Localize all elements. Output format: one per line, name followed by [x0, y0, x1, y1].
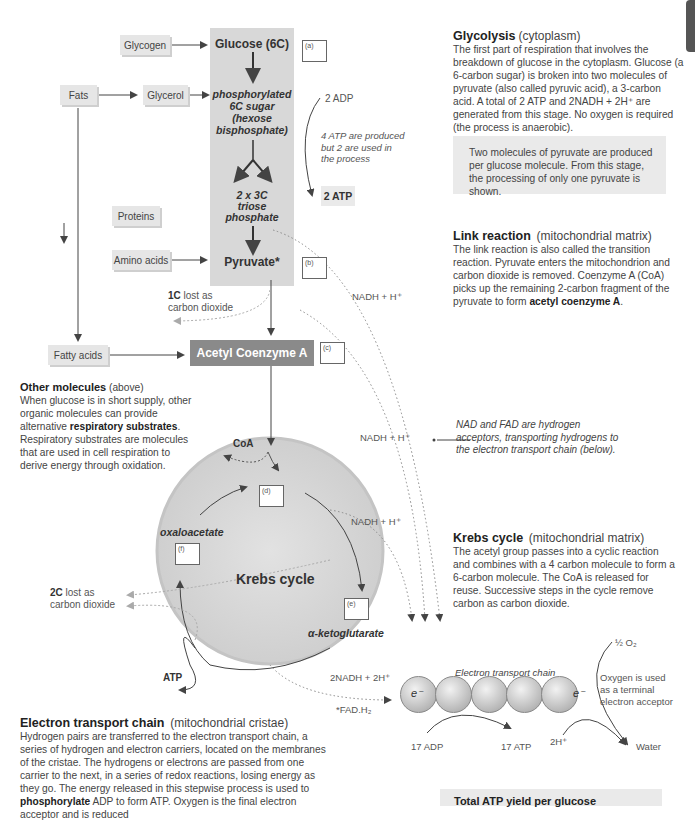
etc-carrier-4	[506, 676, 543, 713]
proteins-box: Proteins	[112, 206, 160, 226]
oxygen-note: Oxygen is usedas a terminalelectron acce…	[600, 672, 673, 708]
ketoglutarate-label: α-ketoglutarate	[308, 627, 384, 639]
other-molecules-text: Other molecules (above) When glucose is …	[20, 381, 200, 472]
answer-box-d[interactable]: (d)	[259, 485, 284, 507]
answer-box-f[interactable]: (f)	[175, 543, 200, 565]
pyruvate-label: Pyruvate*	[210, 255, 294, 269]
other-heading: Other molecules	[20, 381, 106, 393]
2nadh-label: 2NADH + 2H⁺	[330, 672, 390, 683]
oxaloacetate-label: oxaloacetate	[160, 526, 224, 538]
adp-in-label: 2 ADP	[325, 93, 353, 104]
fadh-label: *FAD.H₂	[336, 704, 371, 715]
glycogen-box: Glycogen	[120, 35, 170, 55]
fatty-acids-label: Fatty acids	[54, 350, 102, 361]
total-atp-heading: Total ATP yield per glucose	[454, 795, 596, 807]
glycolysis-text: Glycolysis (cytoplasm) The first part of…	[453, 30, 685, 134]
water-label: Water	[636, 741, 661, 752]
krebs-cycle-label: Krebs cycle	[236, 571, 315, 587]
glucose-label: Glucose (6C)	[210, 37, 294, 51]
atp-krebs-label: ATP	[163, 672, 182, 683]
atp-out-label: 2 ATP	[324, 190, 353, 202]
answer-box-a[interactable]: (a)	[302, 40, 327, 62]
glycerol-box: Glycerol	[143, 85, 188, 105]
electron-out-label: e⁻	[573, 687, 585, 700]
proteins-label: Proteins	[118, 211, 155, 222]
nad-fad-note: NAD and FAD are hydrogen acceptors, tran…	[456, 419, 626, 457]
fats-box: Fats	[60, 85, 97, 105]
glycerol-label: Glycerol	[147, 90, 184, 101]
etc-label: Electron transport chain	[455, 667, 555, 678]
answer-box-b[interactable]: (b)	[302, 257, 327, 279]
link-heading: Link reaction	[453, 229, 531, 243]
atp-note: 4 ATP are producedbut 2 are used inthe p…	[321, 130, 405, 165]
link-reaction-text: Link reaction (mitochondrial matrix) The…	[453, 230, 685, 308]
co2-2c-label: 2C lost ascarbon dioxide	[50, 587, 115, 611]
glycogen-label: Glycogen	[124, 40, 166, 51]
nadh-label-2: NADH + H⁺	[360, 432, 410, 443]
fatty-acids-box: Fatty acids	[48, 345, 108, 365]
etc-carrier-2	[435, 676, 472, 713]
electron-in-label: e⁻	[411, 687, 423, 700]
atp-out-box: 2 ATP	[321, 186, 355, 206]
acetyl-coa-box: Acetyl Coenzyme A	[190, 340, 314, 366]
adp17-label: 17 ADP	[411, 741, 443, 752]
etc-heading: Electron transport chain	[20, 716, 164, 730]
o2-label: ½ O₂	[615, 637, 637, 648]
coa-label: CoA	[233, 438, 254, 449]
glycolysis-heading: Glycolysis	[453, 29, 516, 43]
triose-label: 2 x 3Ctriosephosphate	[210, 190, 294, 223]
etc-carrier-3	[471, 676, 508, 713]
acetyl-coa-label: Acetyl Coenzyme A	[197, 346, 308, 360]
nadh-label-1: NADH + H⁺	[352, 291, 402, 302]
amino-acids-box: Amino acids	[112, 250, 170, 270]
answer-box-e[interactable]: (e)	[344, 598, 369, 620]
amino-acids-label: Amino acids	[114, 255, 168, 266]
krebs-heading: Krebs cycle	[453, 531, 523, 545]
etc-text: Electron transport chain (mitochondrial …	[20, 717, 330, 821]
2h-label: 2H⁺	[550, 736, 567, 747]
pyruvate-note: Two molecules of pyruvate are produced p…	[469, 146, 659, 198]
nadh-label-3: NADH + H⁺	[351, 516, 401, 527]
fats-label: Fats	[69, 90, 88, 101]
co2-1c-label: 1C lost ascarbon dioxide	[168, 290, 233, 314]
hexose-label: phosphorylated6C sugar(hexosebisphosphat…	[210, 88, 294, 136]
answer-box-c[interactable]: (c)	[320, 342, 345, 364]
atp17-label: 17 ATP	[501, 741, 531, 752]
krebs-cycle-text: Krebs cycle (mitochondrial matrix) The a…	[453, 532, 678, 610]
